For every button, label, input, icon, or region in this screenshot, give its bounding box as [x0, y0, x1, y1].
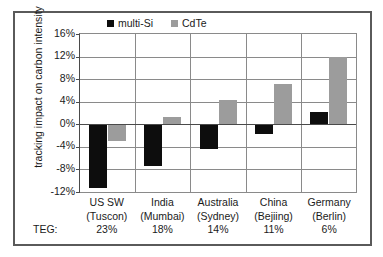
zero-axis-line [80, 124, 356, 125]
y-axis-tick-label: -8% [41, 163, 75, 174]
x-axis-category-line: Australia [190, 196, 246, 210]
category-divider [301, 34, 302, 192]
x-axis-category-line: Germany [301, 196, 357, 210]
y-axis-tick-label: -4% [41, 140, 75, 151]
bar-cdte-4 [274, 84, 292, 124]
x-axis-category-line: (Bejiing) [246, 210, 302, 224]
bar-multi-si-1 [89, 124, 107, 188]
legend-entry-multi-si: multi-Si [107, 17, 153, 30]
y-axis-tick-label: 4% [41, 95, 75, 106]
bar-cdte-1 [108, 124, 126, 140]
y-axis-tick-label: 8% [41, 73, 75, 84]
y-axis-tick-mark [76, 102, 80, 103]
y-axis-tick-mark [76, 169, 80, 170]
legend-label: multi-Si [118, 17, 153, 30]
x-axis-category-line: (Berlin) [301, 210, 357, 224]
y-axis-tick-mark [76, 79, 80, 80]
legend-entry-cdte: CdTe [171, 17, 207, 30]
y-axis-tick-label: 12% [41, 50, 75, 61]
legend-label: CdTe [182, 17, 207, 30]
legend-swatch-icon [107, 20, 114, 27]
teg-value: 18% [135, 223, 191, 237]
teg-value: 6% [301, 223, 357, 237]
x-axis-category-5: Germany(Berlin)6% [301, 196, 357, 237]
gridline [80, 57, 356, 58]
x-axis-category-line: (Tuscon) [79, 210, 135, 224]
gridline [80, 79, 356, 80]
gridline [80, 192, 356, 193]
x-axis-category-labels: US SW(Tuscon)23%India(Mumbai)18%Australi… [79, 196, 357, 237]
x-axis-category-line: US SW [79, 196, 135, 210]
category-divider [190, 34, 191, 192]
bar-cdte-5 [329, 57, 347, 125]
teg-value: 11% [246, 223, 302, 237]
teg-value: 23% [79, 223, 135, 237]
y-axis-tick-mark [76, 192, 80, 193]
x-axis-category-line: (Mumbai) [135, 210, 191, 224]
bar-multi-si-3 [200, 124, 218, 149]
x-axis-category-line: China [246, 196, 302, 210]
y-axis-tick-label: 16% [41, 28, 75, 39]
y-axis-tick-mark [76, 57, 80, 58]
x-axis-category-line: India [135, 196, 191, 210]
x-axis-category-4: China(Bejiing)11% [246, 196, 302, 237]
y-axis-tick-mark [76, 147, 80, 148]
figure-frame: tracking impact on carbon intensity 16%1… [13, 11, 372, 246]
chart-legend: multi-SiCdTe [107, 17, 207, 30]
gridline [80, 147, 356, 148]
x-axis-category-2: India(Mumbai)18% [135, 196, 191, 237]
gridline [80, 169, 356, 170]
teg-row-label: TEG: [33, 223, 58, 237]
bar-cdte-3 [219, 100, 237, 124]
bar-multi-si-4 [255, 124, 273, 134]
y-axis-tick-label: -12% [41, 186, 75, 197]
x-axis-category-line: (Sydney) [190, 210, 246, 224]
teg-value: 14% [190, 223, 246, 237]
legend-swatch-icon [171, 20, 178, 27]
bar-multi-si-2 [144, 124, 162, 166]
category-divider [135, 34, 136, 192]
y-axis-tick-mark [76, 34, 80, 35]
plot-area [79, 33, 357, 193]
bar-cdte-2 [163, 117, 181, 124]
bar-multi-si-5 [310, 112, 328, 124]
x-axis-category-1: US SW(Tuscon)23% [79, 196, 135, 237]
category-divider [246, 34, 247, 192]
y-axis-tick-label: 0% [41, 118, 75, 129]
y-axis-tick-labels: 16%12%8%4%0%-4%-8%-12% [41, 25, 75, 185]
x-axis-category-3: Australia(Sydney)14% [190, 196, 246, 237]
